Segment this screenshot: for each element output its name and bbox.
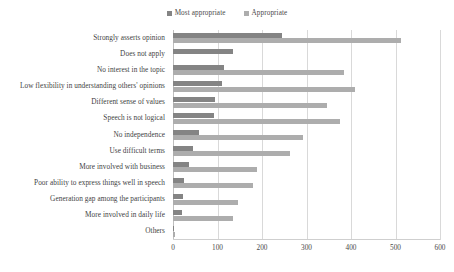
bar-most-appropriate (173, 226, 174, 231)
bar-most-appropriate (173, 130, 199, 135)
chart-legend: Most appropriate Appropriate (0, 9, 454, 17)
category-label: Low flexibility in understanding others'… (20, 82, 165, 90)
legend-item-appropriate: Appropriate (244, 9, 288, 17)
bar-most-appropriate (173, 113, 214, 118)
bar-appropriate (173, 70, 344, 75)
bar-appropriate (173, 135, 303, 140)
bar-rows (173, 30, 440, 240)
bar-most-appropriate (173, 81, 222, 86)
bar-most-appropriate (173, 146, 193, 151)
bar-most-appropriate (173, 194, 183, 199)
legend-item-most-appropriate: Most appropriate (167, 9, 226, 17)
bar-most-appropriate (173, 97, 215, 102)
category-label: Different sense of values (91, 98, 165, 106)
bar-most-appropriate (173, 33, 282, 38)
bar-appropriate (173, 167, 257, 172)
bar-most-appropriate (173, 210, 182, 215)
bar-chart: Most appropriate Appropriate Strongly as… (0, 0, 454, 272)
category-label: More involved with business (79, 163, 165, 171)
legend-label-appropriate: Appropriate (252, 9, 288, 17)
tick-label-600: 600 (435, 243, 446, 252)
tick-label-400: 400 (346, 243, 357, 252)
legend-label-most-appropriate: Most appropriate (175, 9, 226, 17)
plot-area (173, 30, 440, 240)
category-axis-labels: Strongly asserts opinionDoes not applyNo… (0, 30, 169, 240)
tick-label-100: 100 (212, 243, 223, 252)
tick-label-500: 500 (390, 243, 401, 252)
category-label: More involved in daily life (85, 211, 165, 219)
tick-label-200: 200 (257, 243, 268, 252)
bar-most-appropriate (173, 49, 233, 54)
category-label: Speech is not logical (103, 114, 165, 122)
category-label: Generation gap among the participants (50, 195, 165, 203)
tick-label-300: 300 (301, 243, 312, 252)
bar-appropriate (173, 232, 175, 237)
bar-appropriate (173, 183, 253, 188)
category-label: Poor ability to express things well in s… (34, 179, 165, 187)
bar-most-appropriate (173, 65, 224, 70)
bar-appropriate (173, 119, 340, 124)
bar-appropriate (173, 151, 290, 156)
category-label: Strongly asserts opinion (93, 34, 165, 42)
bar-appropriate (173, 200, 238, 205)
category-label: Does not apply (120, 50, 165, 58)
bar-appropriate (173, 216, 233, 221)
gridline-600 (440, 30, 441, 240)
x-axis-tick-labels: 0100200300400500600 (173, 243, 440, 257)
category-label: No independence (113, 131, 165, 139)
bar-most-appropriate (173, 178, 184, 183)
bar-most-appropriate (173, 162, 189, 167)
tick-label-0: 0 (171, 243, 175, 252)
x-axis-line (173, 239, 440, 240)
bar-appropriate (173, 87, 355, 92)
category-label: Use difficult terms (109, 147, 165, 155)
legend-swatch-most-appropriate (167, 11, 172, 16)
category-label: No interest in the topic (97, 66, 165, 74)
legend-swatch-appropriate (244, 11, 249, 16)
bar-appropriate (173, 38, 401, 43)
bar-appropriate (173, 103, 327, 108)
category-label: Others (145, 227, 165, 235)
